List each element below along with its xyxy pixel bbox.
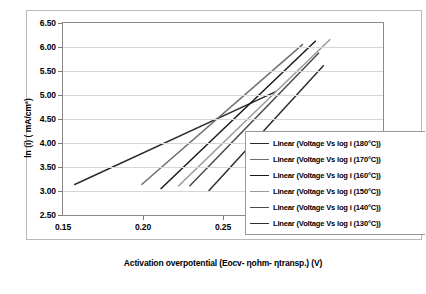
legend-item-label: Linear (Voltage Vs log i (150°C)) xyxy=(273,187,381,196)
legend-item[interactable]: Linear (Voltage Vs log i (140°C)) xyxy=(250,199,425,215)
y-axis-tick-label: 4.00 xyxy=(40,138,56,148)
y-axis-tick-label: 3.00 xyxy=(40,186,56,196)
gridline xyxy=(63,47,383,48)
legend-item[interactable]: Linear (Voltage Vs log i (170°C)) xyxy=(250,151,425,167)
x-axis-tick-label: 0.15 xyxy=(55,222,71,232)
legend-line-swatch xyxy=(250,191,269,192)
legend-item[interactable]: Linear (Voltage Vs log i (150°C)) xyxy=(250,183,425,199)
legend-line-swatch xyxy=(250,175,269,176)
legend-item-label: Linear (Voltage Vs log i (170°C)) xyxy=(273,155,381,164)
legend-item-label: Linear (Voltage Vs log i (140°C)) xyxy=(273,203,381,212)
x-axis-tick xyxy=(143,216,144,220)
legend-item[interactable]: Linear (Voltage Vs log i (130°C)) xyxy=(250,215,425,231)
y-axis-tick-label: 3.50 xyxy=(40,162,56,172)
legend-item-label: Linear (Voltage Vs log i (130°C)) xyxy=(273,219,381,228)
y-axis-title: ln (i) ( mA/cm²) xyxy=(23,98,33,158)
y-axis-tick-label: 5.00 xyxy=(40,90,56,100)
y-axis-tick-label: 6.00 xyxy=(40,42,56,52)
x-axis-tick-label: 0.20 xyxy=(135,222,151,232)
legend-item[interactable]: Linear (Voltage Vs log i (160°C)) xyxy=(250,167,425,183)
x-axis-tick xyxy=(223,216,224,220)
legend-item[interactable]: Linear (Voltage Vs log i (180°C)) xyxy=(250,135,425,151)
legend-item-label: Linear (Voltage Vs log i (160°C)) xyxy=(273,171,381,180)
legend-line-swatch xyxy=(250,143,269,144)
legend-item-label: Linear (Voltage Vs log i (180°C)) xyxy=(273,139,381,148)
chart-figure: ln (i) ( mA/cm²) 2.503.003.504.004.505.0… xyxy=(0,0,426,294)
gridline xyxy=(63,95,383,96)
gridline xyxy=(63,119,383,120)
legend-line-swatch xyxy=(250,159,269,160)
y-axis-tick-label: 5.50 xyxy=(40,66,56,76)
x-axis-tick-label: 0.25 xyxy=(215,222,231,232)
y-axis-tick-label: 6.50 xyxy=(40,18,56,28)
y-axis-tick-label: 4.50 xyxy=(40,114,56,124)
y-axis-tick-label: 2.50 xyxy=(40,210,56,220)
gridline xyxy=(63,71,383,72)
legend-line-swatch xyxy=(250,223,269,224)
chart-legend[interactable]: Linear (Voltage Vs log i (180°C))Linear … xyxy=(245,131,425,235)
x-axis-title: Activation overpotential (Eocv- ηohm- ηt… xyxy=(62,258,384,268)
legend-line-swatch xyxy=(250,207,269,208)
